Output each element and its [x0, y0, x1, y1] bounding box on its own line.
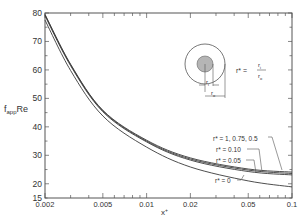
- x-tick-label: 0.05: [241, 200, 256, 209]
- curve-r-1-0-75-0-5: [45, 14, 292, 172]
- x-tick-label: 0.005: [93, 200, 112, 209]
- x-tick-label: 0.02: [183, 200, 198, 209]
- x-axis: 0.0020.0050.010.020.050.1: [36, 13, 298, 209]
- annulus-inset: ri ro r* = ri ro: [185, 44, 266, 98]
- ro-label: ro: [211, 90, 216, 98]
- x-axis-label: x+: [161, 207, 168, 217]
- y-tick-label: 20: [33, 179, 43, 189]
- y-axis: 1520304050607080: [33, 8, 292, 203]
- formula-lhs: r* =: [236, 67, 247, 74]
- chart: 1520304050607080 0.0020.0050.010.020.050…: [0, 0, 304, 223]
- annotation-r-1-075-05: r* = 1, 0.75, 0.5: [213, 135, 258, 142]
- curve-r-0: [45, 20, 292, 187]
- annotation-r-005: r* = 0.05: [216, 157, 241, 164]
- y-tick-label: 30: [33, 150, 43, 160]
- curve-r-0-10: [45, 15, 292, 174]
- ri-label: ri: [206, 79, 209, 87]
- y-tick-label: 80: [33, 8, 43, 18]
- y-tick-label: 70: [33, 36, 43, 46]
- curves: [45, 14, 292, 187]
- plot-frame: [45, 13, 292, 198]
- curve-annotations: r* = 1, 0.75, 0.5 r* = 0.10 r* = 0.05 r*…: [213, 135, 282, 184]
- formula-numerator: ri: [258, 62, 261, 70]
- annotation-r-0: r* = 0: [215, 177, 231, 184]
- y-tick-label: 40: [33, 122, 43, 132]
- x-tick-label: 0.002: [36, 200, 55, 209]
- annotation-r-010: r* = 0.10: [216, 146, 241, 153]
- formula-denominator: ro: [258, 73, 263, 81]
- y-axis-label: fappRe: [4, 104, 28, 115]
- y-tick-label: 50: [33, 93, 43, 103]
- x-tick-label: 0.01: [139, 200, 154, 209]
- y-tick-label: 60: [33, 65, 43, 75]
- x-tick-label: 0.1: [287, 200, 297, 209]
